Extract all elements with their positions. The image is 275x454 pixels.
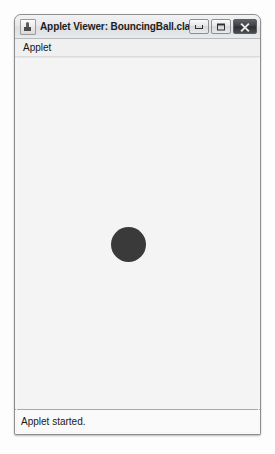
maximize-button[interactable] xyxy=(211,19,231,34)
close-icon xyxy=(240,21,251,32)
window-controls xyxy=(189,19,257,34)
bouncing-ball xyxy=(111,227,146,262)
status-bar: Applet started. xyxy=(15,409,260,434)
minimize-icon xyxy=(195,25,203,29)
window-title: Applet Viewer: BouncingBall.class xyxy=(40,20,189,34)
maximize-icon xyxy=(217,23,225,30)
java-applet-icon xyxy=(20,19,36,35)
title-bar[interactable]: Applet Viewer: BouncingBall.class xyxy=(15,15,260,39)
menu-item-applet[interactable]: Applet xyxy=(21,42,53,54)
menu-bar: Applet xyxy=(15,39,260,57)
minimize-button[interactable] xyxy=(189,19,209,34)
status-message: Applet started. xyxy=(21,416,85,428)
applet-viewer-window: Applet Viewer: BouncingBall.class Applet… xyxy=(14,14,261,435)
applet-canvas[interactable] xyxy=(15,57,260,409)
close-button[interactable] xyxy=(233,19,257,34)
